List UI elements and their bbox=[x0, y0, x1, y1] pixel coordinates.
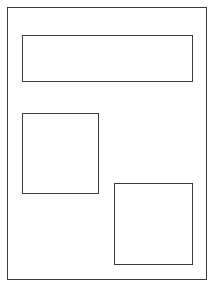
top-banner-box bbox=[22, 35, 193, 82]
middle-left-box bbox=[22, 113, 99, 194]
bottom-right-box bbox=[114, 183, 193, 265]
